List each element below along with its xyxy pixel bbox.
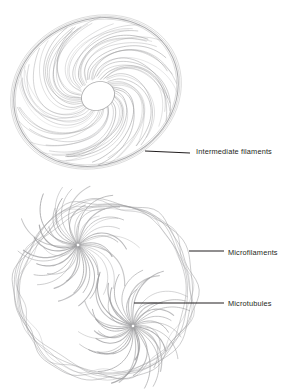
lower-cell-group <box>12 186 199 388</box>
leader-line-intermediate-filaments <box>145 151 190 153</box>
cytoskeleton-diagram <box>0 0 299 392</box>
label-microtubules: Microtubules <box>228 300 272 307</box>
label-microfilaments: Microfilaments <box>228 249 278 256</box>
upper-cell-group <box>0 0 206 196</box>
label-intermediate-filaments: Intermediate filaments <box>196 148 272 155</box>
